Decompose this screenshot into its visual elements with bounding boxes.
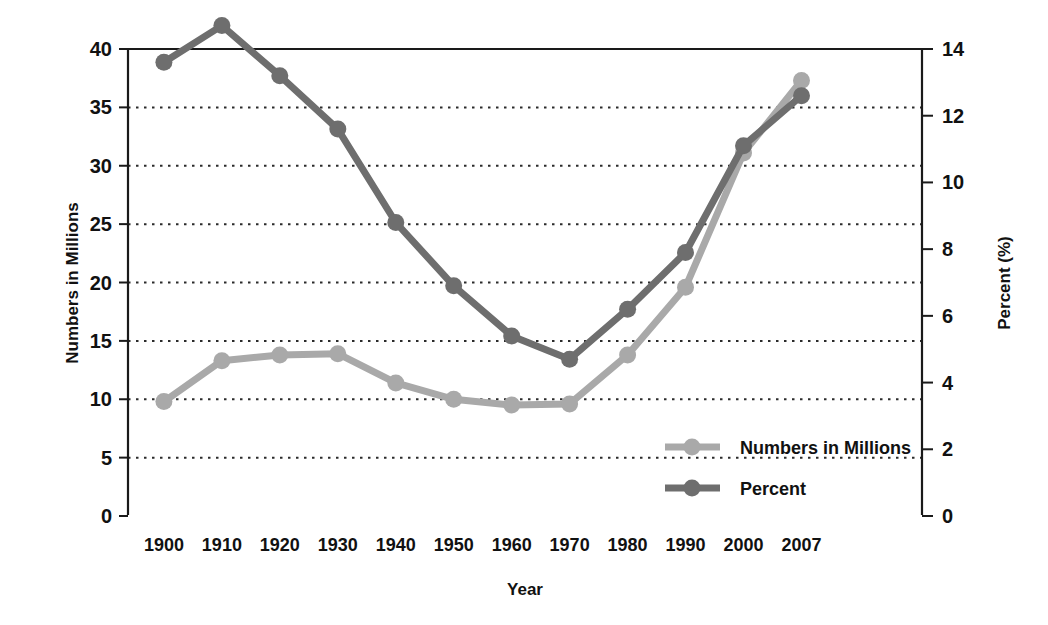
legend-swatch-marker: [684, 480, 701, 497]
data-point-marker: [271, 346, 288, 363]
data-point-marker: [561, 351, 578, 368]
left-axis-tick-label: 15: [90, 330, 112, 352]
left-axis-tick-label: 5: [101, 447, 112, 469]
data-point-marker: [387, 214, 404, 231]
x-axis-tick-label: 1930: [318, 535, 358, 555]
data-point-marker: [445, 391, 462, 408]
data-point-marker: [445, 277, 462, 294]
x-axis-tick-label: 1920: [260, 535, 300, 555]
data-point-marker: [503, 397, 520, 414]
x-axis-tick-label: 1950: [434, 535, 474, 555]
x-axis-tick-label: 2007: [781, 535, 821, 555]
data-point-marker: [619, 301, 636, 318]
left-axis-tick-label: 40: [90, 38, 112, 60]
data-point-marker: [155, 54, 172, 71]
x-axis-tick-label: 1990: [666, 535, 706, 555]
data-point-marker: [793, 87, 810, 104]
data-point-marker: [213, 352, 230, 369]
x-axis-title: Year: [507, 580, 543, 599]
x-axis-tick-label: 1940: [376, 535, 416, 555]
x-axis-tick-label: 1970: [550, 535, 590, 555]
right-axis-tick-label: 0: [942, 505, 953, 527]
chart-background: [0, 0, 1048, 625]
data-point-marker: [619, 346, 636, 363]
x-axis-tick-label: 1980: [608, 535, 648, 555]
x-axis-tick-label: 2000: [723, 535, 763, 555]
left-axis-tick-label: 10: [90, 388, 112, 410]
data-point-marker: [213, 17, 230, 34]
right-axis-tick-label: 14: [942, 38, 965, 60]
right-axis-tick-label: 4: [942, 372, 954, 394]
dual-axis-line-chart: 0510152025303540 02468101214 19001910192…: [0, 0, 1048, 625]
chart-container: 0510152025303540 02468101214 19001910192…: [0, 0, 1048, 625]
data-point-marker: [793, 72, 810, 89]
left-axis-tick-label: 25: [90, 213, 112, 235]
data-point-marker: [561, 395, 578, 412]
right-axis-tick-label: 12: [942, 105, 964, 127]
right-axis-tick-label: 10: [942, 171, 964, 193]
data-point-marker: [271, 67, 288, 84]
data-point-marker: [503, 327, 520, 344]
y2-axis-title: Percent (%): [995, 236, 1014, 330]
data-point-marker: [677, 279, 694, 296]
legend-swatch-marker: [684, 439, 701, 456]
x-axis-tick-label: 1900: [144, 535, 184, 555]
left-axis-tick-label: 0: [101, 505, 112, 527]
left-axis-tick-label: 30: [90, 155, 112, 177]
left-axis-tick-label: 35: [90, 96, 112, 118]
right-axis-tick-label: 6: [942, 305, 953, 327]
x-axis-tick-label: 1960: [492, 535, 532, 555]
data-point-marker: [387, 374, 404, 391]
y-axis-title: Numbers in Millions: [63, 202, 82, 364]
data-point-marker: [329, 121, 346, 138]
right-axis-tick-label: 2: [942, 438, 953, 460]
legend-item-label: Percent: [740, 479, 806, 499]
legend-item-label: Numbers in Millions: [740, 438, 911, 458]
right-axis-tick-label: 8: [942, 238, 953, 260]
x-axis-tick-label: 1910: [202, 535, 242, 555]
data-point-marker: [155, 393, 172, 410]
left-axis-tick-label: 20: [90, 272, 112, 294]
data-point-marker: [677, 244, 694, 261]
data-point-marker: [735, 137, 752, 154]
data-point-marker: [329, 345, 346, 362]
